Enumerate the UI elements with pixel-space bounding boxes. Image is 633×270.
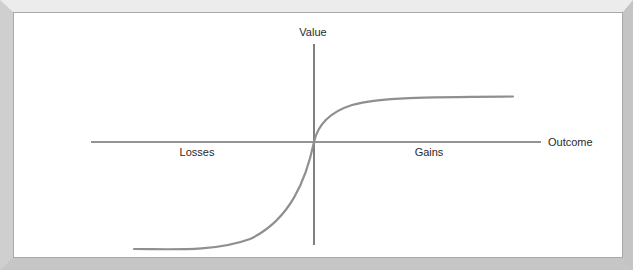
y-axis-label: Value bbox=[299, 26, 326, 38]
value-curve-gains bbox=[314, 97, 513, 143]
losses-label: Losses bbox=[180, 146, 215, 158]
value-curve-losses bbox=[134, 142, 314, 249]
gains-label: Gains bbox=[415, 146, 444, 158]
value-function-diagram: Value Outcome Losses Gains bbox=[0, 0, 633, 270]
x-axis-label: Outcome bbox=[548, 136, 593, 148]
